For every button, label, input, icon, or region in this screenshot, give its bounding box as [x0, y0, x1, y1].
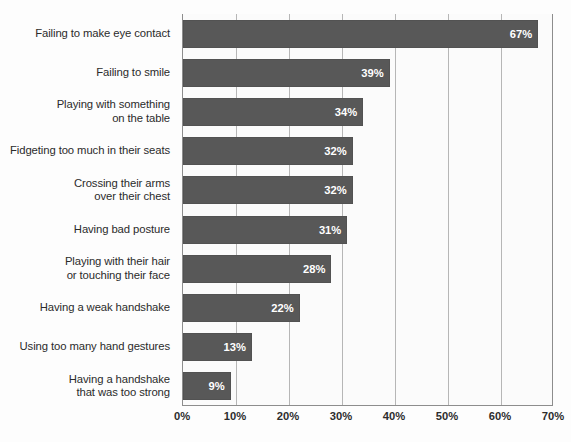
category-label-line: or touching their face — [0, 269, 170, 283]
bar-value-label: 32% — [324, 184, 346, 196]
category-label-line: over their chest — [0, 190, 170, 204]
category-label-line: Playing with something — [0, 98, 170, 112]
category-label: Having bad posture — [0, 223, 170, 237]
category-label: Using too many hand gestures — [0, 340, 170, 354]
category-label: Playing with somethingon the table — [0, 98, 170, 125]
category-label-line: on the table — [0, 112, 170, 126]
bar-value-label: 32% — [324, 145, 346, 157]
bar-value-label: 39% — [361, 67, 383, 79]
bar: 67% — [183, 20, 538, 48]
bar-row: 32% — [183, 137, 353, 165]
bar: 28% — [183, 255, 331, 283]
bar: 31% — [183, 216, 347, 244]
bar-row: 9% — [183, 372, 231, 400]
value-axis-labels: 0%10%20%30%40%50%60%70% — [182, 410, 553, 430]
x-tick-label: 0% — [174, 410, 190, 422]
category-label: Failing to smile — [0, 66, 170, 80]
bar-value-label: 31% — [319, 224, 341, 236]
plot-area: 67%39%34%32%32%31%28%22%13%9% — [182, 14, 553, 406]
bar-value-label: 67% — [510, 28, 532, 40]
bar-value-label: 9% — [209, 380, 225, 392]
category-label-line: Having bad posture — [0, 223, 170, 237]
bar-row: 67% — [183, 20, 538, 48]
category-label: Playing with their hairor touching their… — [0, 255, 170, 282]
bar: 32% — [183, 176, 353, 204]
bar: 13% — [183, 333, 252, 361]
gridline-70pct — [554, 14, 555, 405]
bar-series: 67%39%34%32%32%31%28%22%13%9% — [183, 14, 552, 405]
bar-row: 39% — [183, 59, 390, 87]
category-axis-labels: Failing to make eye contactFailing to sm… — [0, 14, 176, 406]
bar: 22% — [183, 294, 300, 322]
category-label-line: Failing to smile — [0, 66, 170, 80]
bar: 9% — [183, 372, 231, 400]
bar-row: 31% — [183, 216, 347, 244]
category-label-line: Having a handshake — [0, 373, 170, 387]
category-label-line: Crossing their arms — [0, 177, 170, 191]
bar-chart: Failing to make eye contactFailing to sm… — [0, 0, 571, 442]
bar: 32% — [183, 137, 353, 165]
category-label-line: Fidgeting too much in their seats — [0, 144, 170, 158]
category-label: Having a weak handshake — [0, 301, 170, 315]
x-tick-label: 30% — [330, 410, 352, 422]
bar: 39% — [183, 59, 390, 87]
x-tick-label: 10% — [224, 410, 246, 422]
bar-row: 34% — [183, 98, 363, 126]
category-label-line: Playing with their hair — [0, 255, 170, 269]
category-label-line: Using too many hand gestures — [0, 340, 170, 354]
bar-row: 32% — [183, 176, 353, 204]
bar-row: 28% — [183, 255, 331, 283]
x-tick-label: 20% — [277, 410, 299, 422]
x-tick-label: 60% — [489, 410, 511, 422]
category-label: Failing to make eye contact — [0, 27, 170, 41]
bar: 34% — [183, 98, 363, 126]
bar-value-label: 22% — [271, 302, 293, 314]
category-label: Crossing their armsover their chest — [0, 177, 170, 204]
category-label-line: Failing to make eye contact — [0, 27, 170, 41]
bar-value-label: 13% — [223, 341, 245, 353]
x-tick-label: 40% — [383, 410, 405, 422]
category-label: Fidgeting too much in their seats — [0, 144, 170, 158]
bar-row: 13% — [183, 333, 252, 361]
x-tick-label: 50% — [436, 410, 458, 422]
category-label: Having a handshakethat was too strong — [0, 373, 170, 400]
bar-row: 22% — [183, 294, 300, 322]
category-label-line: that was too strong — [0, 386, 170, 400]
bar-value-label: 34% — [335, 106, 357, 118]
bar-value-label: 28% — [303, 263, 325, 275]
x-tick-label: 70% — [542, 410, 564, 422]
category-label-line: Having a weak handshake — [0, 301, 170, 315]
